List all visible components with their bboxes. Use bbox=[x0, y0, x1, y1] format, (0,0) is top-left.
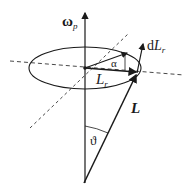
theta-label: ϑ bbox=[90, 134, 96, 147]
diagram-graphics bbox=[0, 0, 186, 189]
dashed-diagonal-line bbox=[30, 34, 128, 128]
dLr-vector bbox=[137, 44, 143, 73]
theta-arc bbox=[85, 126, 108, 133]
L-vector bbox=[84, 75, 136, 183]
L-label: L bbox=[131, 101, 140, 116]
dLr-label: dLr bbox=[147, 39, 165, 53]
origin-point bbox=[83, 66, 87, 70]
omega-p-label: ωp bbox=[62, 14, 77, 29]
Lr-label: Lr bbox=[96, 72, 108, 87]
alpha-label: α bbox=[111, 58, 117, 69]
precession-diagram: ωp dLr α Lr L ϑ bbox=[0, 0, 186, 189]
rotated-vector bbox=[85, 53, 127, 68]
